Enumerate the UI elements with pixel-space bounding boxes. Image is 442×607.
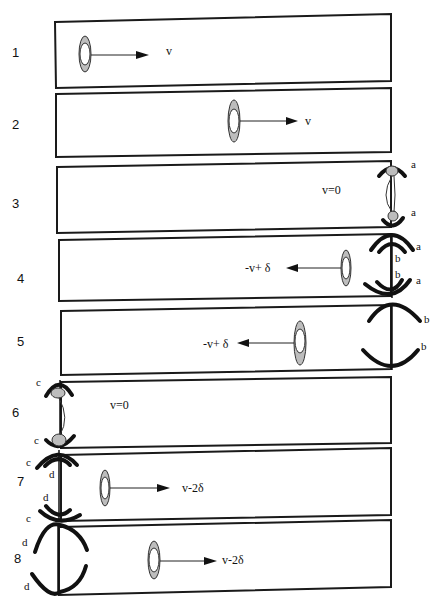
mirror-label: d <box>43 491 49 503</box>
particle-icon <box>228 100 240 142</box>
mirror-pair-icon <box>37 450 80 521</box>
frame-number: 3 <box>12 196 19 211</box>
mirror-label: d <box>24 580 30 592</box>
frame-8: 8 v-2δ d d <box>14 520 391 595</box>
velocity-label: -v+ δ <box>203 337 229 351</box>
frame-6: 6 v=0 c c <box>12 376 391 448</box>
frame-box <box>55 14 391 88</box>
frame-box <box>56 88 391 157</box>
mirror-label: c <box>34 434 39 446</box>
frame-box <box>57 161 391 233</box>
frame-number: 4 <box>17 271 24 286</box>
mirror-pair-icon <box>365 234 413 298</box>
arrowhead-icon <box>136 51 149 59</box>
velocity-label: v=0 <box>322 183 341 197</box>
mirror-label: a <box>411 158 416 170</box>
mirror-label: b <box>421 340 427 352</box>
arrowhead-icon <box>286 264 298 272</box>
frame-1: 1 v <box>12 14 391 88</box>
velocity-label: -v+ δ <box>245 261 271 275</box>
particle-icon <box>100 470 110 506</box>
velocity-label: v-2δ <box>222 553 244 567</box>
mirror-label: c <box>26 512 31 524</box>
particle-icon <box>294 321 306 365</box>
frame-number: 2 <box>12 117 19 132</box>
arrowhead-icon <box>237 339 249 347</box>
particle-icon <box>341 250 351 286</box>
velocity-label: v <box>305 114 311 128</box>
frame-number: 7 <box>17 474 24 489</box>
mirror-label: d <box>22 536 28 548</box>
velocity-label: v=0 <box>110 398 129 412</box>
particle-icon <box>79 36 91 72</box>
mirror-label: d <box>49 468 55 480</box>
velocity-label: v-2δ <box>182 481 204 495</box>
velocity-label: v <box>166 44 172 58</box>
frame-number: 6 <box>12 405 19 420</box>
mirror-label: b <box>395 268 401 280</box>
mirror-label: c <box>26 456 31 468</box>
particle-icon <box>148 541 160 579</box>
mirror-pair-icon <box>363 304 420 370</box>
arrowhead-icon <box>204 557 217 565</box>
mirror-label: a <box>416 274 421 286</box>
mirror-bounce-diagram: 1 v 2 v 3 v=0 a a <box>0 0 442 607</box>
frame-number: 8 <box>14 551 21 566</box>
mirror-pair-icon <box>46 380 74 448</box>
arrowhead-icon <box>157 484 170 492</box>
frame-5: 5 -v+ δ b b <box>17 304 430 375</box>
frame-box <box>61 448 391 521</box>
mirror-label: a <box>411 206 416 218</box>
frame-number: 5 <box>17 334 24 349</box>
mirror-label: c <box>36 376 41 388</box>
mirror-label: b <box>424 313 430 325</box>
frame-2: 2 v <box>12 88 391 157</box>
frame-box <box>61 377 391 448</box>
arrowhead-icon <box>286 117 298 125</box>
mirror-label: a <box>416 240 421 252</box>
frame-4: 4 -v+ δ a b b a <box>17 234 421 301</box>
mirror-label: b <box>395 252 401 264</box>
frame-3: 3 v=0 a a <box>12 158 416 233</box>
frame-number: 1 <box>12 45 19 60</box>
frame-7: 7 v-2δ c d d c <box>17 448 391 524</box>
